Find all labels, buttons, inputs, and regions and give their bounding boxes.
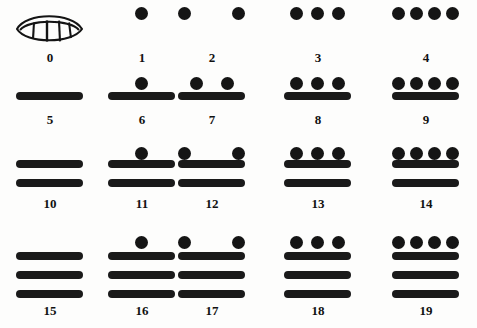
dot xyxy=(446,147,459,160)
dot xyxy=(392,236,405,249)
bar xyxy=(392,92,459,100)
dot xyxy=(311,236,324,249)
bar xyxy=(16,179,83,187)
bar-group-6 xyxy=(106,92,178,111)
numeral-label-7: 7 xyxy=(176,112,248,128)
dot-group-18 xyxy=(282,234,354,252)
bar xyxy=(108,290,175,298)
numeral-label-5: 5 xyxy=(14,112,86,128)
dot xyxy=(446,77,459,90)
dot xyxy=(232,236,245,249)
bar xyxy=(108,160,175,168)
bar xyxy=(284,160,351,168)
numeral-label-11: 11 xyxy=(106,196,178,212)
dot xyxy=(428,7,441,20)
bar xyxy=(16,92,83,100)
bar xyxy=(392,160,459,168)
dot xyxy=(428,147,441,160)
numeral-label-16: 16 xyxy=(106,303,178,319)
bar-group-12 xyxy=(176,160,248,198)
bar xyxy=(392,290,459,298)
dot xyxy=(232,147,245,160)
bar-group-18 xyxy=(282,252,354,309)
bar-group-15 xyxy=(14,252,86,309)
dot xyxy=(332,77,345,90)
numeral-label-0: 0 xyxy=(14,50,86,66)
bar-group-5 xyxy=(14,92,86,111)
dot-group-7 xyxy=(176,75,248,93)
bar xyxy=(178,179,245,187)
numeral-label-8: 8 xyxy=(282,112,354,128)
dot xyxy=(290,7,303,20)
dot xyxy=(178,147,191,160)
dot xyxy=(232,7,245,20)
numeral-label-4: 4 xyxy=(390,50,462,66)
dot-group-8 xyxy=(282,75,354,93)
dot xyxy=(410,236,423,249)
dot xyxy=(135,147,148,160)
dot xyxy=(290,236,303,249)
bar xyxy=(178,160,245,168)
bar xyxy=(16,252,83,260)
bar-group-17 xyxy=(176,252,248,309)
dot xyxy=(332,236,345,249)
dot xyxy=(221,77,234,90)
bar xyxy=(108,92,175,100)
dot-group-4 xyxy=(390,5,462,23)
dot xyxy=(392,7,405,20)
bar xyxy=(284,252,351,260)
bar-group-13 xyxy=(282,160,354,198)
dot xyxy=(190,77,203,90)
dot xyxy=(392,147,405,160)
dot xyxy=(311,147,324,160)
bar xyxy=(392,179,459,187)
numeral-label-2: 2 xyxy=(176,50,248,66)
bar xyxy=(392,252,459,260)
dot xyxy=(410,77,423,90)
dot xyxy=(290,77,303,90)
dot xyxy=(446,7,459,20)
numeral-label-10: 10 xyxy=(14,196,86,212)
bar xyxy=(284,179,351,187)
dot xyxy=(135,77,148,90)
dot-group-9 xyxy=(390,75,462,93)
dot-group-1 xyxy=(106,5,178,23)
bar xyxy=(178,92,245,100)
numeral-label-9: 9 xyxy=(390,112,462,128)
bar xyxy=(178,271,245,279)
dot xyxy=(428,77,441,90)
shell-icon xyxy=(14,5,86,45)
numeral-label-14: 14 xyxy=(390,196,462,212)
dot xyxy=(135,236,148,249)
dot xyxy=(290,147,303,160)
dot xyxy=(311,7,324,20)
dot xyxy=(410,7,423,20)
dot-group-6 xyxy=(106,75,178,93)
dot xyxy=(332,7,345,20)
dot-group-3 xyxy=(282,5,354,23)
dot xyxy=(410,147,423,160)
bar xyxy=(178,290,245,298)
bar-group-14 xyxy=(390,160,462,198)
bar xyxy=(16,160,83,168)
dot xyxy=(392,77,405,90)
numeral-label-19: 19 xyxy=(390,303,462,319)
dot xyxy=(311,77,324,90)
bar-group-11 xyxy=(106,160,178,198)
bar xyxy=(284,271,351,279)
bar xyxy=(16,290,83,298)
bar xyxy=(108,179,175,187)
bar xyxy=(284,92,351,100)
dot xyxy=(135,7,148,20)
numeral-label-13: 13 xyxy=(282,196,354,212)
bar xyxy=(284,290,351,298)
bar xyxy=(108,252,175,260)
bar xyxy=(108,271,175,279)
bar xyxy=(178,252,245,260)
numeral-label-15: 15 xyxy=(14,303,86,319)
numeral-label-12: 12 xyxy=(176,196,248,212)
bar xyxy=(16,271,83,279)
maya-numeral-chart: 012345678910111213141516171819 xyxy=(0,0,477,328)
bar-group-16 xyxy=(106,252,178,309)
dot xyxy=(178,7,191,20)
